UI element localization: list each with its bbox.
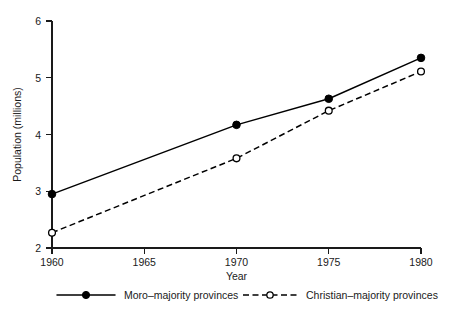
x-tick-label-1965: 1965 (133, 256, 157, 268)
x-tick-label-1970: 1970 (225, 256, 249, 268)
y-tick-label-4: 4 (35, 129, 41, 141)
legend-swatch-filled-circle-icon (82, 291, 89, 298)
data-point-1970 (233, 121, 241, 129)
legend-swatch-open-circle-icon (267, 292, 273, 298)
data-point-1975 (325, 107, 332, 114)
y-tick-label-6: 6 (35, 15, 41, 27)
y-axis-title: Population (millions) (11, 87, 23, 182)
x-tick-label-1960: 1960 (40, 256, 64, 268)
x-axis-title: Year (226, 270, 248, 282)
y-tick-label-2: 2 (35, 242, 41, 254)
x-tick-label-1980: 1980 (409, 256, 433, 268)
data-point-1960 (49, 229, 56, 236)
data-point-1980 (418, 68, 425, 75)
data-point-1975 (325, 95, 333, 103)
chart-figure: 2 3 4 5 6 1960 1965 1970 1975 1980 Year … (0, 0, 452, 315)
legend-label-christian: Christian–majority provinces (306, 289, 438, 301)
y-tick-label-5: 5 (35, 72, 41, 84)
legend-label-moro: Moro–majority provinces (124, 289, 238, 301)
line-chart-canvas: 2 3 4 5 6 1960 1965 1970 1975 1980 Year … (0, 0, 452, 315)
y-tick-label-3: 3 (35, 185, 41, 197)
data-point-1970 (233, 155, 240, 162)
x-tick-label-1975: 1975 (317, 256, 341, 268)
data-point-1960 (48, 190, 56, 198)
data-point-1980 (417, 54, 425, 62)
